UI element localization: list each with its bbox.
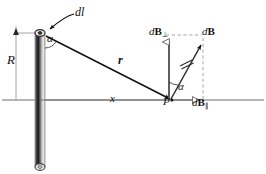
- alpha-arc-point-P: [169, 82, 178, 85]
- point-P-marker: [170, 98, 173, 101]
- label-r-vector: r: [118, 54, 123, 66]
- label-dB: dB: [202, 26, 215, 37]
- label-x: x: [110, 93, 115, 104]
- dl-leader-arrow: [50, 14, 74, 29]
- label-dB-parallel-B: B: [198, 96, 205, 108]
- label-dl: dl: [75, 6, 84, 18]
- label-point-P: P: [163, 96, 170, 107]
- label-dB-perp-B: B: [155, 25, 162, 37]
- label-dB-parallel-subscript: ∥: [205, 102, 209, 109]
- figure-canvas: [0, 0, 266, 174]
- label-dB-parallel: dB∥: [192, 97, 209, 110]
- label-R: R: [7, 53, 15, 66]
- label-dB-perp: dB⊥: [149, 26, 168, 39]
- label-dB-perp-subscript: ⊥: [162, 31, 168, 38]
- label-dB-B: B: [208, 25, 215, 37]
- label-alpha-rod: α: [47, 33, 53, 44]
- dB-resultant-vector: [171, 45, 201, 99]
- physics-figure: dl α R r x P α dB⊥ dB dB∥: [0, 0, 266, 174]
- r-vector: [46, 36, 170, 99]
- label-alpha-point-P: α: [178, 81, 184, 92]
